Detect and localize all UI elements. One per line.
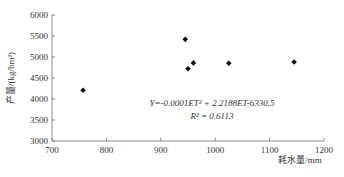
x-tick-label: 1000 [206, 145, 225, 155]
y-axis-label: 产量/(kg/hm²) [5, 52, 16, 104]
y-tick-label: 6000 [30, 10, 49, 20]
r-squared: R² = 0.6113 [190, 111, 234, 121]
y-tick-label: 4500 [30, 73, 49, 83]
data-point [80, 87, 86, 93]
x-tick-label: 800 [100, 145, 114, 155]
data-points [80, 37, 297, 93]
scatter-chart: 7008009001000110012003000350040004500500… [0, 0, 344, 177]
x-axis-label: 耗水量/mm [278, 154, 322, 165]
x-tick-label: 900 [154, 145, 168, 155]
x-tick-label: 700 [45, 145, 59, 155]
data-point [291, 59, 297, 65]
y-tick-label: 3500 [30, 115, 49, 125]
y-tick-label: 3000 [30, 136, 49, 146]
x-tick-label: 1100 [261, 145, 279, 155]
data-point [226, 61, 232, 67]
y-tick-label: 5000 [30, 52, 49, 62]
data-point [185, 66, 191, 72]
annotations: Y=-0.0001ET² + 2.2188ET-6330.5R² = 0.611… [150, 98, 275, 121]
x-tick-label: 1200 [315, 145, 334, 155]
y-tick-label: 4000 [30, 94, 49, 104]
y-tick-label: 5500 [30, 31, 49, 41]
fit-equation: Y=-0.0001ET² + 2.2188ET-6330.5 [150, 98, 275, 108]
data-point [191, 60, 197, 66]
axes: 7008009001000110012003000350040004500500… [5, 10, 334, 165]
data-point [182, 37, 188, 43]
